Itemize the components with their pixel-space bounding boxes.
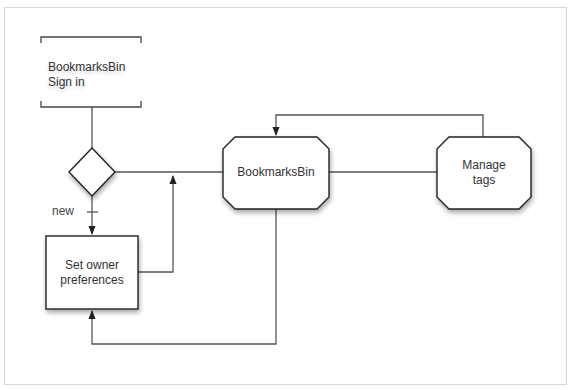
bookmarksbin-label-line-1: BookmarksBin — [223, 165, 329, 180]
edge-manage-tags-to-bookmarksbin — [276, 115, 483, 137]
owner-prefs-label: Set owner preferences — [46, 258, 138, 288]
signin-label-line-1: BookmarksBin — [48, 60, 140, 75]
flowchart-canvas — [0, 0, 574, 390]
owner-prefs-label-line-1: Set owner — [46, 258, 138, 273]
signin-label: BookmarksBin Sign in — [48, 60, 140, 90]
edge-owner-prefs-to-bookmarksbin — [138, 176, 173, 272]
signin-label-line-2: Sign in — [48, 75, 140, 90]
edge-label-new: new — [52, 204, 74, 218]
manage-tags-label-line-2: tags — [437, 173, 531, 188]
bookmarksbin-label: BookmarksBin — [223, 165, 329, 180]
owner-prefs-label-line-2: preferences — [46, 273, 138, 288]
manage-tags-label-line-1: Manage — [437, 158, 531, 173]
manage-tags-label: Manage tags — [437, 158, 531, 188]
node-decision-diamond[interactable] — [69, 148, 115, 196]
